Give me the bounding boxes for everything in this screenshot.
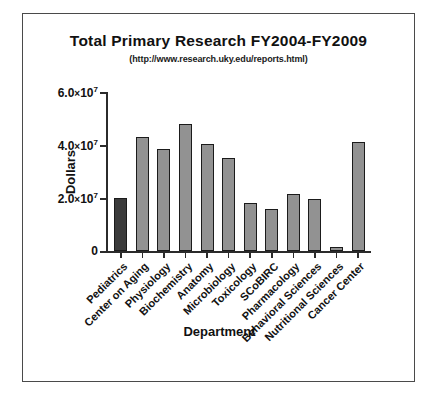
bar-cancer-center[interactable] xyxy=(352,142,365,251)
bar-physiology[interactable] xyxy=(157,149,170,251)
bar-slot xyxy=(347,92,369,251)
bar-slot xyxy=(261,92,283,251)
bar-slot xyxy=(196,92,218,251)
bar-slot xyxy=(304,92,326,251)
y-axis-tick-label: 6.0×107 xyxy=(58,85,98,100)
bar-center-on-aging[interactable] xyxy=(136,137,149,251)
x-axis-tick xyxy=(142,251,144,258)
y-axis-tick xyxy=(100,251,106,253)
x-axis-tick-slot xyxy=(218,251,240,258)
x-axis-tick-slot xyxy=(196,251,218,258)
x-axis-tick xyxy=(163,251,165,258)
bar-slot xyxy=(175,92,197,251)
x-axis-tick-slot xyxy=(175,251,197,258)
x-axis-tick xyxy=(185,251,187,258)
y-axis-tick xyxy=(100,92,106,94)
figure-frame: Total Primary Research FY2004-FY2009 (ht… xyxy=(22,13,415,382)
x-axis-tick-slot xyxy=(347,251,369,258)
y-axis-title: Dollars xyxy=(63,149,78,193)
bar-scobirc[interactable] xyxy=(265,209,278,251)
chart-subtitle: (http://www.research.uky.edu/reports.htm… xyxy=(23,54,414,64)
x-axis-title: Department xyxy=(23,324,416,339)
x-axis-tick-slot xyxy=(283,251,305,258)
bar-slot xyxy=(326,92,348,251)
x-axis-tick-slot xyxy=(304,251,326,258)
y-axis-tick-label: 0 xyxy=(91,244,98,258)
x-axis-tick xyxy=(271,251,273,258)
bar-slot xyxy=(153,92,175,251)
bar-slot xyxy=(283,92,305,251)
x-axis-tick xyxy=(206,251,208,258)
bar-biochemistry[interactable] xyxy=(179,124,192,251)
x-axis-tick xyxy=(314,251,316,258)
bar-slot xyxy=(132,92,154,251)
x-axis-tick xyxy=(228,251,230,258)
bar-series xyxy=(108,92,371,251)
bar-behavioral-sciences[interactable] xyxy=(308,199,321,251)
bar-anatomy[interactable] xyxy=(201,144,214,251)
x-axis-tick xyxy=(249,251,251,258)
x-axis-tick xyxy=(336,251,338,258)
x-axis-tick-slot xyxy=(110,251,132,258)
bar-slot xyxy=(110,92,132,251)
y-axis-tick xyxy=(100,198,106,200)
x-axis-tick-slot xyxy=(132,251,154,258)
chart-title: Total Primary Research FY2004-FY2009 xyxy=(23,32,414,50)
x-axis-tick xyxy=(293,251,295,258)
bar-toxicology[interactable] xyxy=(244,203,257,251)
x-axis-tick-slot xyxy=(326,251,348,258)
bar-pharmacology[interactable] xyxy=(287,194,300,251)
x-axis-tick-slot xyxy=(261,251,283,258)
x-axis-tick-slot xyxy=(153,251,175,258)
x-axis-tick xyxy=(120,251,122,258)
bar-microbiology[interactable] xyxy=(222,158,235,251)
bar-slot xyxy=(218,92,240,251)
x-axis-tick xyxy=(357,251,359,258)
y-axis-tick xyxy=(100,145,106,147)
plot-area: 02.0×1074.0×1076.0×107 Dollars Pediatric… xyxy=(106,92,371,251)
x-axis-ticks xyxy=(108,251,371,258)
x-axis-tick-slot xyxy=(239,251,261,258)
bar-slot xyxy=(239,92,261,251)
bar-pediatrics[interactable] xyxy=(114,198,127,251)
